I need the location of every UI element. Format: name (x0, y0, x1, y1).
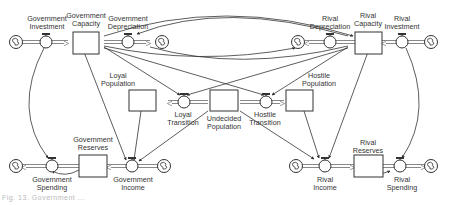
figure-caption: Fig. 13. Government ... (2, 194, 85, 201)
label-line: Spending (32, 184, 72, 192)
stock-government-capacity[interactable] (73, 32, 99, 54)
label-government-investment: Government Investment (27, 15, 67, 31)
label-line: Reserves (353, 147, 383, 155)
cloud-sink-icon (10, 160, 23, 173)
label-undecided-population: Undecided Population (207, 115, 241, 131)
label-government-capacity: Government Capacity (66, 12, 106, 28)
label-government-income: Government Income (113, 176, 153, 192)
label-government-spending: Government Spending (32, 176, 72, 192)
label-line: Income (313, 184, 337, 192)
valve-government-depreciation[interactable] (122, 33, 134, 48)
cloud-source-icon (425, 36, 438, 49)
stock-loyal-population[interactable] (129, 90, 156, 111)
label-government-depreciation: Government Depreciation (108, 15, 148, 31)
label-rival-depreciation: Rival Depreciation (310, 15, 350, 31)
label-line: Depreciation (108, 23, 148, 31)
label-hostile-transition: Hostile Transition (249, 111, 280, 127)
label-government-reserves: Government Reserves (73, 136, 113, 152)
label-line: Investment (27, 23, 67, 31)
stock-hostile-population[interactable] (286, 90, 313, 111)
label-hostile-population: Hostile Population (302, 72, 336, 88)
label-line: Investment (384, 23, 419, 31)
label-line: Income (113, 184, 153, 192)
label-rival-income: Rival Income (313, 176, 337, 192)
label-line: Population (302, 80, 336, 88)
valve-rival-depreciation[interactable] (324, 33, 336, 48)
valve-rival-spending[interactable] (394, 157, 406, 172)
label-line: Population (207, 123, 241, 131)
label-loyal-population: Loyal Population (101, 72, 135, 88)
label-rival-reserves: Rival Reserves (353, 139, 383, 155)
cloud-sink-icon (156, 36, 169, 49)
label-line: Spending (387, 184, 417, 192)
cloud-source-icon (10, 36, 23, 49)
label-line: Reserves (73, 144, 113, 152)
stock-rival-capacity[interactable] (355, 32, 382, 54)
cloud-source-icon (290, 160, 303, 173)
valve-rival-investment[interactable] (396, 33, 408, 48)
label-line: Capacity (66, 20, 106, 28)
valve-hostile-transition[interactable] (260, 93, 272, 108)
label-rival-spending: Rival Spending (387, 176, 417, 192)
stock-government-reserves[interactable] (79, 155, 107, 177)
valve-government-income[interactable] (126, 157, 138, 172)
cloud-sink-icon (292, 36, 305, 49)
valve-government-investment[interactable] (40, 33, 52, 48)
label-rival-capacity: Rival Capacity (354, 12, 382, 28)
valve-rival-income[interactable] (319, 157, 331, 172)
cloud-sink-icon (425, 160, 438, 173)
label-line: Capacity (354, 20, 382, 28)
label-line: Depreciation (310, 23, 350, 31)
stock-undecided-population[interactable] (210, 90, 238, 111)
valve-government-spending[interactable] (46, 157, 58, 172)
label-rival-investment: Rival Investment (384, 15, 419, 31)
label-line: Transition (249, 119, 280, 127)
stock-rival-reserves[interactable] (354, 155, 383, 177)
label-line: Transition (167, 119, 198, 127)
cloud-source-icon (158, 160, 171, 173)
label-loyal-transition: Loyal Transition (167, 111, 198, 127)
label-line: Population (101, 80, 135, 88)
